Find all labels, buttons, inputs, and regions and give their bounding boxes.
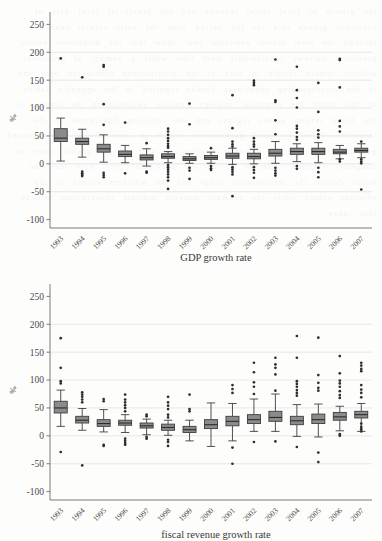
x-tick-label-2006: 2006 <box>327 234 344 251</box>
outlier-point <box>360 384 363 387</box>
boxplot-fiscal-revenue-growth-rate-1999 <box>183 393 196 441</box>
outlier-point <box>231 127 234 130</box>
boxplot-fiscal-revenue-growth-rate-2004 <box>290 335 303 449</box>
x-tick-label-1997: 1997 <box>134 234 151 251</box>
outlier-point <box>59 451 62 454</box>
outlier-point <box>167 413 170 416</box>
outlier-point <box>360 364 363 367</box>
box-iqr <box>54 129 67 142</box>
outlier-point <box>167 416 170 419</box>
outlier-point <box>296 392 299 395</box>
outlier-point <box>317 389 320 392</box>
outlier-point <box>317 82 320 85</box>
y-tick-label-200: 200 <box>30 48 45 58</box>
outlier-point <box>124 443 127 446</box>
x-tick-label-1998: 1998 <box>155 234 172 251</box>
boxplot-series-top <box>54 57 368 197</box>
x-tick-label-1996: 1996 <box>112 506 129 523</box>
outlier-point <box>145 437 148 440</box>
outlier-point <box>253 166 256 169</box>
outlier-point <box>296 385 299 388</box>
outlier-point <box>188 410 191 413</box>
outlier-point <box>296 131 299 134</box>
x-tick-label-2004: 2004 <box>284 506 301 523</box>
boxplot-gdp-growth-rate-2004 <box>290 65 303 170</box>
outlier-point <box>360 370 363 373</box>
outlier-point <box>188 102 191 105</box>
outlier-point <box>167 441 170 444</box>
outlier-point <box>253 381 256 384</box>
boxplot-gdp-growth-rate-1995 <box>97 64 110 179</box>
x-tick-label-2006: 2006 <box>327 506 344 523</box>
gdp-growth-rate-svg: 250200150100500-50-100 19931994199519961… <box>0 0 382 270</box>
outlier-point <box>338 355 341 358</box>
x-tick-label-1997: 1997 <box>134 506 151 523</box>
outlier-point <box>296 335 299 338</box>
y-tick-label-250: 250 <box>30 20 45 30</box>
y-tick-labels-bottom: 250200150100500-50-100 <box>27 292 45 497</box>
outlier-point <box>360 361 363 364</box>
outlier-point <box>102 176 105 179</box>
outlier-point <box>167 173 170 176</box>
outlier-point <box>81 395 84 398</box>
x-tick-label-2007: 2007 <box>349 506 366 523</box>
boxplot-gdp-growth-rate-1994 <box>76 76 89 177</box>
outlier-point <box>81 401 84 404</box>
outlier-point <box>145 142 148 145</box>
box-iqr <box>97 144 110 152</box>
outlier-point <box>296 136 299 139</box>
x-axis-title-bottom: fiscal revenue growth rate <box>161 529 271 540</box>
outlier-point <box>253 145 256 148</box>
outlier-point <box>274 119 277 122</box>
outlier-point <box>124 172 127 175</box>
outlier-point <box>102 445 105 448</box>
boxplot-fiscal-revenue-growth-rate-1994 <box>76 391 89 467</box>
outlier-point <box>231 173 234 176</box>
outlier-point <box>338 160 341 163</box>
outlier-point <box>231 462 234 465</box>
box-iqr <box>162 154 175 158</box>
outlier-point <box>124 404 127 407</box>
outlier-point <box>167 445 170 448</box>
outlier-point <box>274 363 277 366</box>
outlier-point <box>274 389 277 392</box>
outlier-point <box>296 168 299 171</box>
outlier-point <box>145 171 148 174</box>
y-tick-label-150: 150 <box>30 76 45 86</box>
outlier-point <box>253 385 256 388</box>
x-tick-label-1993: 1993 <box>48 234 65 251</box>
outlier-point <box>317 129 320 132</box>
outlier-point <box>338 59 341 62</box>
outlier-point <box>81 175 84 178</box>
outlier-point <box>124 410 127 413</box>
outlier-point <box>360 140 363 143</box>
outlier-point <box>274 366 277 369</box>
outlier-point <box>253 169 256 172</box>
box-iqr <box>269 411 282 421</box>
y-tick-labels-top: 250200150100500-50-100 <box>27 20 45 225</box>
outlier-point <box>167 401 170 404</box>
boxplot-gdp-growth-rate-2000 <box>205 147 218 171</box>
boxplot-fiscal-revenue-growth-rate-2001 <box>226 384 239 465</box>
boxplot-fiscal-revenue-growth-rate-2005 <box>312 336 325 463</box>
outlier-point <box>167 130 170 133</box>
outlier-point <box>360 396 363 399</box>
outlier-point <box>296 127 299 130</box>
outlier-point <box>102 103 105 106</box>
x-tick-labels-bottom: 1993199419951996199719981999200020012002… <box>48 506 366 523</box>
outlier-point <box>274 133 277 136</box>
outlier-point <box>188 393 191 396</box>
outlier-point <box>253 176 256 179</box>
y-tick-label--100: -100 <box>27 487 45 497</box>
x-tick-label-1995: 1995 <box>91 234 108 251</box>
outlier-point <box>102 65 105 68</box>
outlier-point <box>317 451 320 454</box>
outlier-point <box>296 394 299 397</box>
box-iqr <box>247 415 260 424</box>
figure-page: the growth of local fiscal revenue and t… <box>0 0 382 541</box>
outlier-point <box>317 176 320 179</box>
y-axis-label-top: % <box>8 114 18 122</box>
y-tick-label-0: 0 <box>39 431 44 441</box>
x-tick-label-2005: 2005 <box>306 234 323 251</box>
x-tick-label-2002: 2002 <box>241 234 258 251</box>
